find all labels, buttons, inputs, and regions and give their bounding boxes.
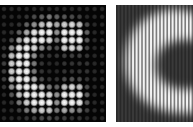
stripe: [163, 5, 165, 122]
grid-dot: [45, 107, 53, 115]
grid-dot: [1, 37, 7, 43]
grid-dot: [15, 67, 23, 75]
grid-dot: [38, 28, 46, 36]
grid-dot: [1, 6, 7, 12]
grid-dot: [69, 53, 75, 59]
grid-dot: [22, 67, 30, 75]
grid-dot: [54, 84, 60, 90]
grid-dot: [53, 29, 60, 36]
grid-dot: [16, 115, 22, 121]
grid-dot: [38, 21, 46, 29]
grid-dot: [92, 100, 98, 106]
grid-dot: [45, 36, 53, 44]
grid-dot: [60, 28, 68, 36]
grid-dot: [46, 84, 53, 91]
grid-dot: [99, 45, 105, 51]
grid-dot: [31, 68, 38, 75]
grid-dot: [99, 115, 105, 121]
grid-dot: [60, 21, 68, 29]
grid-dot: [77, 115, 83, 121]
grid-dot: [22, 59, 30, 67]
grid-dot: [9, 100, 15, 106]
grid-dot: [39, 68, 45, 74]
grid-dot: [46, 69, 52, 75]
dot-grid-letter-c-image: [0, 5, 106, 122]
stripe: [152, 5, 154, 122]
grid-dot: [62, 6, 68, 12]
grid-dot: [16, 99, 23, 106]
grid-dot: [84, 115, 90, 121]
grid-dot: [84, 68, 90, 74]
grid-dot: [38, 91, 46, 99]
grid-dot: [54, 69, 60, 75]
grid-dot: [39, 14, 45, 20]
grid-dot: [54, 14, 60, 20]
grid-dot: [68, 107, 75, 114]
grid-dot: [60, 98, 68, 106]
grid-dot: [8, 83, 15, 90]
grid-dot: [99, 76, 105, 82]
grid-dot: [77, 68, 83, 74]
grid-dot: [1, 84, 7, 90]
stripe: [177, 5, 179, 122]
grid-dot: [46, 6, 52, 12]
grid-dot: [45, 91, 53, 99]
grid-dot: [60, 36, 68, 44]
grid-dot: [30, 83, 38, 91]
grid-dot: [38, 106, 46, 114]
grid-dot: [68, 44, 76, 52]
grid-dot: [15, 91, 23, 99]
grid-dot: [1, 68, 7, 74]
grid-dot: [54, 115, 60, 121]
grid-dot: [92, 69, 98, 75]
grid-dot: [69, 6, 75, 12]
grid-dot: [30, 36, 38, 44]
grid-dot: [38, 36, 46, 44]
grid-dot: [54, 61, 60, 67]
grid-dot: [84, 61, 90, 67]
grid-dot: [68, 21, 76, 29]
grid-dot: [75, 98, 83, 106]
grid-dot: [46, 115, 52, 121]
grid-dot: [39, 115, 45, 121]
dot-grid-svg: [0, 5, 106, 122]
grid-dot: [16, 14, 22, 20]
grid-dot: [77, 61, 83, 67]
stripe: [159, 5, 161, 122]
grid-dot: [99, 61, 105, 67]
grid-dot: [54, 76, 60, 82]
grid-dot: [99, 92, 105, 98]
grid-dot: [61, 107, 68, 114]
grid-dot: [8, 60, 16, 68]
grid-dot: [46, 13, 53, 20]
grid-dot: [1, 92, 7, 98]
grid-dot: [76, 107, 83, 114]
grid-dot: [92, 108, 98, 114]
grid-dot: [54, 6, 60, 12]
grid-dot: [9, 115, 15, 121]
grid-dot: [84, 92, 90, 98]
grid-dot: [99, 6, 105, 12]
stripe: [166, 5, 168, 122]
stripe: [174, 5, 176, 122]
stripe: [184, 5, 186, 122]
grid-dot: [30, 91, 38, 99]
grid-dot: [84, 37, 90, 43]
grid-dot: [69, 61, 75, 67]
grid-dot: [76, 76, 82, 82]
grid-dot: [53, 91, 60, 98]
grid-dot: [77, 53, 83, 59]
grid-dot: [1, 30, 7, 36]
grid-dot: [46, 61, 52, 67]
grid-dot: [53, 107, 60, 114]
grid-dot: [46, 45, 52, 51]
grid-dot: [68, 98, 76, 106]
grid-dot: [84, 22, 90, 28]
stripe: [120, 5, 122, 122]
grid-dot: [69, 68, 75, 74]
dot-grid: [1, 6, 105, 121]
grid-dot: [23, 36, 31, 44]
grid-dot: [24, 14, 30, 20]
grid-dot: [84, 99, 90, 105]
grid-dot: [15, 75, 23, 83]
